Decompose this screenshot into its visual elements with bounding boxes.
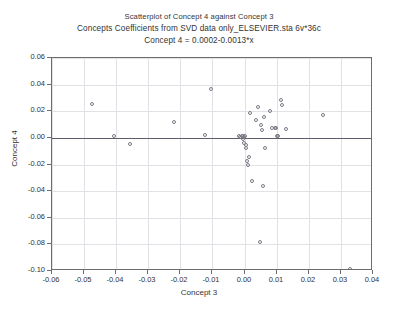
data-point (256, 105, 260, 109)
chart-titles: Scatterplot of Concept 4 against Concept… (0, 11, 398, 47)
gridline-horizontal (52, 58, 371, 59)
data-point (247, 155, 251, 159)
y-tick (47, 190, 51, 191)
gridline-vertical (309, 58, 310, 269)
x-tick (244, 270, 245, 274)
x-tick (372, 270, 373, 274)
gridline-horizontal (52, 191, 371, 192)
y-tick (47, 217, 51, 218)
data-point (128, 142, 132, 146)
data-point (246, 163, 250, 167)
data-point (261, 184, 265, 188)
data-point (260, 128, 264, 132)
y-tick-label: -0.06 (5, 212, 45, 221)
gridline-horizontal (52, 218, 371, 219)
data-point (172, 120, 176, 124)
data-point (244, 146, 248, 150)
gridline-vertical (180, 58, 181, 269)
x-tick (147, 270, 148, 274)
x-tick (83, 270, 84, 274)
y-axis-label: Concept 4 (10, 109, 19, 189)
x-tick (51, 270, 52, 274)
chart-equation: Concept 4 = 0.0002-0.0013*x (0, 35, 398, 47)
regression-line (52, 138, 371, 139)
data-point (348, 267, 352, 270)
y-tick-label: 0.04 (5, 79, 45, 88)
data-point (258, 240, 262, 244)
x-tick-label: 0.04 (352, 275, 392, 284)
chart-subtitle: Concepts Coefficients from SVD data only… (0, 23, 398, 35)
plot-area (51, 57, 372, 270)
y-tick-label: 0.06 (5, 52, 45, 61)
gridline-vertical (84, 58, 85, 269)
data-point (90, 102, 94, 106)
data-point (263, 146, 267, 150)
gridline-vertical (52, 58, 53, 269)
y-tick (47, 243, 51, 244)
data-point (274, 126, 278, 130)
data-point (262, 115, 266, 119)
data-point (280, 103, 284, 107)
gridline-vertical (277, 58, 278, 269)
data-point (259, 123, 263, 127)
gridline-horizontal (52, 244, 371, 245)
y-tick (47, 84, 51, 85)
gridline-vertical (116, 58, 117, 269)
scatterplot-figure: Scatterplot of Concept 4 against Concept… (0, 0, 398, 309)
gridline-vertical (341, 58, 342, 269)
x-tick (308, 270, 309, 274)
x-axis-label: Concept 3 (0, 288, 398, 297)
data-point (284, 127, 288, 131)
gridline-horizontal (52, 85, 371, 86)
data-point (250, 179, 254, 183)
x-tick (276, 270, 277, 274)
y-tick-label: -0.10 (5, 265, 45, 274)
x-tick (115, 270, 116, 274)
gridline-horizontal (52, 111, 371, 112)
y-tick (47, 270, 51, 271)
gridline-vertical (148, 58, 149, 269)
y-tick (47, 57, 51, 58)
data-point (248, 111, 252, 115)
x-tick (340, 270, 341, 274)
y-tick-label: -0.08 (5, 238, 45, 247)
y-tick (47, 110, 51, 111)
data-point (321, 113, 325, 117)
x-tick (179, 270, 180, 274)
y-tick (47, 164, 51, 165)
chart-title: Scatterplot of Concept 4 against Concept… (0, 11, 398, 23)
data-point (254, 118, 258, 122)
gridline-horizontal (52, 165, 371, 166)
data-point (203, 133, 207, 137)
data-point (268, 109, 272, 113)
x-tick (211, 270, 212, 274)
data-point (279, 98, 283, 102)
y-tick (47, 137, 51, 138)
